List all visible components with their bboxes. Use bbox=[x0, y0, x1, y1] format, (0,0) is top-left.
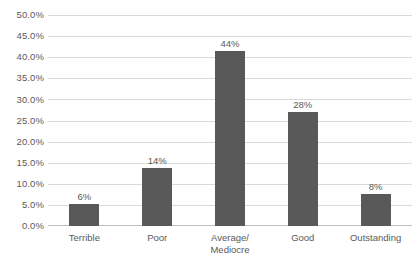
x-axis-tick-outstanding: Outstanding bbox=[339, 232, 412, 244]
plot-area: 6% 14% 44% 28% 8% bbox=[48, 15, 412, 226]
bar-good[interactable] bbox=[288, 112, 318, 226]
bar-value-label: 8% bbox=[369, 181, 383, 192]
x-axis-tick-terrible: Terrible bbox=[48, 232, 121, 244]
bar-group: 28% bbox=[266, 15, 339, 226]
x-axis-tick-good: Good bbox=[266, 232, 339, 244]
y-axis-tick-label: 35.0% bbox=[0, 73, 44, 83]
bar-poor[interactable] bbox=[142, 168, 172, 226]
x-axis-tick-label: Good bbox=[266, 232, 339, 244]
y-axis-tick-label: 25.0% bbox=[0, 116, 44, 126]
y-axis-tick-label: 30.0% bbox=[0, 95, 44, 105]
y-axis-tick-label: 15.0% bbox=[0, 158, 44, 168]
bar-group: 8% bbox=[339, 15, 412, 226]
y-axis: 50.0% 45.0% 40.0% 35.0% 30.0% 25.0% 20.0… bbox=[0, 0, 44, 269]
bar-group: 44% bbox=[194, 15, 267, 226]
x-axis: Terrible Poor Average/ Mediocre Good Out… bbox=[48, 232, 412, 269]
bar-value-label: 14% bbox=[148, 155, 167, 166]
bar-series: 6% 14% 44% 28% 8% bbox=[48, 15, 412, 226]
x-axis-tick-label: Poor bbox=[121, 232, 194, 244]
y-axis-tick-label: 45.0% bbox=[0, 31, 44, 41]
x-axis-tick-label: Average/ bbox=[194, 232, 267, 244]
bar-terrible[interactable] bbox=[69, 204, 99, 226]
x-axis-tick-label: Outstanding bbox=[339, 232, 412, 244]
bar-value-label: 44% bbox=[220, 38, 239, 49]
bar-chart: 50.0% 45.0% 40.0% 35.0% 30.0% 25.0% 20.0… bbox=[0, 0, 418, 269]
y-axis-tick-label: 0.0% bbox=[0, 221, 44, 231]
x-axis-tick-average-mediocre: Average/ Mediocre bbox=[194, 232, 267, 256]
bar-value-label: 28% bbox=[293, 99, 312, 110]
bar-group: 14% bbox=[121, 15, 194, 226]
x-axis-tick-label: Terrible bbox=[48, 232, 121, 244]
x-axis-tick-label-line2: Mediocre bbox=[194, 244, 267, 256]
x-axis-tick-poor: Poor bbox=[121, 232, 194, 244]
y-axis-tick-label: 50.0% bbox=[0, 10, 44, 20]
y-axis-tick-label: 20.0% bbox=[0, 137, 44, 147]
bar-outstanding[interactable] bbox=[361, 194, 391, 226]
y-axis-tick-label: 10.0% bbox=[0, 179, 44, 189]
bar-group: 6% bbox=[48, 15, 121, 226]
bar-average-mediocre[interactable] bbox=[215, 51, 245, 226]
y-axis-tick-label: 5.0% bbox=[0, 200, 44, 210]
y-axis-tick-label: 40.0% bbox=[0, 52, 44, 62]
bar-value-label: 6% bbox=[78, 191, 92, 202]
